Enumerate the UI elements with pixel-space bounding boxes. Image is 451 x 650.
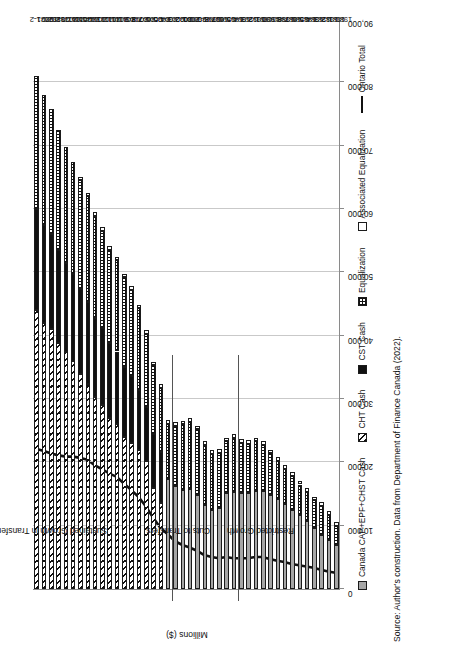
bar-segment-capcash bbox=[232, 492, 237, 589]
legend-item-cst[interactable]: CST Cash bbox=[357, 322, 367, 373]
bar-segment-aeq bbox=[203, 441, 208, 445]
bar-row bbox=[181, 20, 186, 589]
bar-segment-eq bbox=[283, 469, 288, 504]
bar-row bbox=[298, 20, 303, 589]
bar-segment-aeq bbox=[78, 177, 83, 180]
bar-segment-eq bbox=[319, 506, 324, 535]
bar-row bbox=[232, 20, 237, 589]
bar-row bbox=[210, 20, 215, 589]
axis-tick bbox=[339, 335, 344, 336]
bar-segment-capcash bbox=[305, 521, 310, 589]
legend-label: Equalization bbox=[357, 247, 367, 293]
bar-row bbox=[122, 20, 127, 589]
bar-segment-eq bbox=[173, 426, 178, 486]
axis-tick bbox=[339, 461, 344, 462]
legend-item-aeq[interactable]: Associated Equalization bbox=[357, 130, 367, 232]
bar-segment-cht bbox=[159, 504, 164, 590]
bar-segment-eq bbox=[64, 147, 69, 263]
bar-row bbox=[319, 20, 324, 589]
bar-segment-eq bbox=[42, 95, 47, 225]
bar-segment-cst bbox=[100, 328, 105, 405]
bar-segment-capcash bbox=[327, 540, 332, 589]
bar-segment-eq bbox=[239, 443, 244, 494]
bar-segment-eq bbox=[312, 500, 317, 527]
legend-swatch-eq-icon bbox=[358, 297, 367, 306]
bar-segment-aeq bbox=[246, 440, 251, 444]
bar-segment-cht bbox=[42, 323, 47, 589]
bar-segment-capcash bbox=[334, 545, 339, 589]
figure: Millions ($) 010,00020,00030,00040,00050… bbox=[0, 0, 451, 650]
bar-segment-eq bbox=[224, 441, 229, 493]
bar-row bbox=[115, 20, 120, 589]
axis-tick-label: 50,000 bbox=[348, 272, 388, 281]
bar-segment-cst bbox=[64, 263, 69, 352]
axis-tick bbox=[339, 525, 344, 526]
bar-segment-capcash bbox=[173, 486, 178, 589]
bar-segment-eq bbox=[115, 260, 120, 351]
bar-row bbox=[290, 20, 295, 589]
bar-segment-cht bbox=[64, 352, 69, 589]
plot-area: 010,00020,00030,00040,00050,00060,00070,… bbox=[33, 20, 340, 590]
axis-tick-label: 30,000 bbox=[348, 399, 388, 408]
bar-segment-eq bbox=[137, 308, 142, 390]
bar-segment-capcash bbox=[210, 510, 215, 589]
bar-row bbox=[151, 20, 156, 589]
bar-segment-cst bbox=[151, 434, 156, 487]
bar-row bbox=[107, 20, 112, 589]
bar-segment-eq bbox=[327, 515, 332, 540]
bar-segment-aeq bbox=[305, 488, 310, 492]
bar-segment-aeq bbox=[100, 227, 105, 231]
legend-item-ontario[interactable]: Ontario Total bbox=[357, 45, 367, 113]
bar-segment-cst bbox=[144, 407, 149, 461]
legend-item-cht[interactable]: CHT Cash bbox=[357, 390, 367, 442]
bar-segment-cst bbox=[56, 250, 61, 342]
bar-segment-cst bbox=[122, 367, 127, 437]
bar-segment-eq bbox=[107, 250, 112, 344]
bar-segment-eq bbox=[334, 526, 339, 546]
legend-swatch-aeq-icon bbox=[358, 222, 367, 231]
bar-segment-aeq bbox=[319, 502, 324, 506]
bar-segment-eq bbox=[56, 130, 61, 250]
bar-segment-aeq bbox=[283, 465, 288, 469]
bar-segment-cht bbox=[137, 450, 142, 589]
bar-row bbox=[49, 20, 54, 589]
bar-segment-capcash bbox=[290, 510, 295, 589]
legend-item-capcash[interactable]: Canada CAP+EPF+CHST Cash bbox=[357, 458, 367, 590]
bar-segment-eq bbox=[232, 438, 237, 492]
legend-swatch-cst-icon bbox=[358, 365, 367, 374]
bar-segment-eq bbox=[210, 454, 215, 510]
bar-row bbox=[283, 20, 288, 589]
bar-row bbox=[305, 20, 310, 589]
bar-segment-eq bbox=[78, 180, 83, 290]
bar-segment-capcash bbox=[239, 493, 244, 589]
bar-segment-cst bbox=[93, 318, 98, 397]
bar-segment-capcash bbox=[195, 495, 200, 589]
value-axis-title: Millions ($) bbox=[33, 628, 340, 642]
bar-row bbox=[224, 20, 229, 589]
legend-item-eq[interactable]: Equalization bbox=[357, 247, 367, 306]
bar-segment-cht bbox=[100, 405, 105, 589]
bar-row bbox=[239, 20, 244, 589]
bar-segment-eq bbox=[93, 216, 98, 318]
bar-segment-cht bbox=[86, 384, 91, 589]
axis-tick-label: 80,000 bbox=[348, 82, 388, 91]
bar-row bbox=[195, 20, 200, 589]
bar-segment-capcash bbox=[217, 508, 222, 589]
bar-segment-cst bbox=[86, 302, 91, 384]
bar-row bbox=[276, 20, 281, 589]
bar-segment-cst bbox=[159, 452, 164, 504]
legend-label: CST Cash bbox=[357, 322, 367, 360]
bar-segment-capcash bbox=[203, 505, 208, 589]
bar-segment-aeq bbox=[159, 384, 164, 388]
bar-segment-aeq bbox=[239, 439, 244, 443]
bar-segment-eq bbox=[34, 76, 39, 209]
bar-row bbox=[34, 20, 39, 589]
bar-segment-eq bbox=[305, 492, 310, 521]
bar-segment-eq bbox=[86, 196, 91, 302]
bar-segment-eq bbox=[181, 424, 186, 489]
bar-segment-eq bbox=[276, 461, 281, 499]
bar-row bbox=[129, 20, 134, 589]
bar-row bbox=[78, 20, 83, 589]
bar-segment-aeq bbox=[137, 305, 142, 309]
legend-swatch-capcash-icon bbox=[358, 581, 367, 590]
